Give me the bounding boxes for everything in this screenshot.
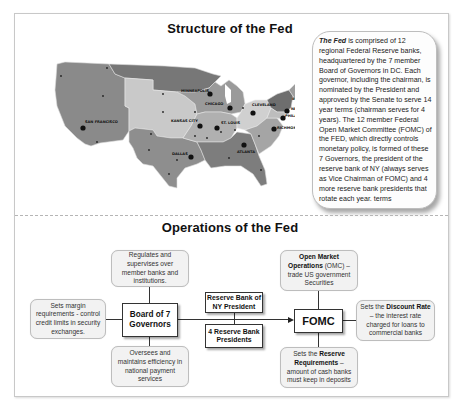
connector-ny-reserve bbox=[234, 313, 235, 324]
board-of-governors-box: Board of 7Governors bbox=[122, 303, 178, 337]
operations-title: Operations of the Fed bbox=[150, 220, 310, 235]
callout-open-market-operations: Open Market Operations (OMC) – trade US … bbox=[280, 250, 358, 291]
callout-reserve-requirements: Sets the Reserve Requirements – amount o… bbox=[280, 347, 358, 388]
svg-text:BOSTON: BOSTON bbox=[292, 97, 295, 101]
svg-text:ST. LOUIS: ST. LOUIS bbox=[221, 121, 241, 125]
connector-board-oversees bbox=[149, 337, 150, 346]
reserve-presidents-box: 4 Reserve BankPresidents bbox=[205, 324, 263, 348]
info-lead: The Fed bbox=[319, 37, 346, 45]
ny-president-box: Reserve Bank ofNY President bbox=[205, 292, 263, 313]
callout-discount-rate: Sets the Discount Rate – the interest ra… bbox=[356, 300, 435, 341]
svg-text:CLEVELAND: CLEVELAND bbox=[252, 103, 276, 107]
info-text: is comprised of 12 regional Federal Rese… bbox=[319, 37, 432, 203]
callout-oversees-payments: Oversees and maintains efficiency in nat… bbox=[111, 346, 189, 387]
svg-text:PHILADELPHIA: PHILADELPHIA bbox=[285, 114, 295, 118]
connector-fomc-reserve-req bbox=[318, 333, 319, 347]
svg-text:ATLANTA: ATLANTA bbox=[237, 150, 255, 154]
svg-text:CHICAGO: CHICAGO bbox=[205, 102, 223, 106]
structure-title: Structure of the Fed bbox=[150, 21, 310, 36]
svg-text:MINNEAPOLIS: MINNEAPOLIS bbox=[181, 89, 209, 93]
connector-omo-fomc bbox=[318, 291, 319, 309]
connector-margin-board bbox=[106, 319, 122, 320]
svg-text:DALLAS: DALLAS bbox=[172, 152, 188, 156]
connector-regulates-board bbox=[149, 286, 150, 303]
svg-text:SAN FRANCISCO: SAN FRANCISCO bbox=[85, 120, 118, 124]
fomc-box: FOMC bbox=[294, 309, 343, 333]
connector-fomc-discount bbox=[343, 320, 356, 321]
svg-text:RICHMOND: RICHMOND bbox=[277, 126, 295, 130]
svg-text:KANSAS CITY: KANSAS CITY bbox=[171, 119, 198, 123]
callout-regulates: Regulates and supervises over member ban… bbox=[111, 250, 189, 287]
us-federal-reserve-districts-map: SAN FRANCISCO MINNEAPOLIS KANSAS CITY CH… bbox=[45, 56, 295, 206]
connector-board-fomc bbox=[178, 319, 288, 320]
svg-text:NEW YORK: NEW YORK bbox=[291, 107, 295, 111]
callout-margin-requirements: Sets margin requirements - control credi… bbox=[30, 299, 106, 339]
fed-description-box: The Fed is comprised of 12 regional Fede… bbox=[312, 31, 437, 209]
section-divider bbox=[15, 215, 448, 216]
